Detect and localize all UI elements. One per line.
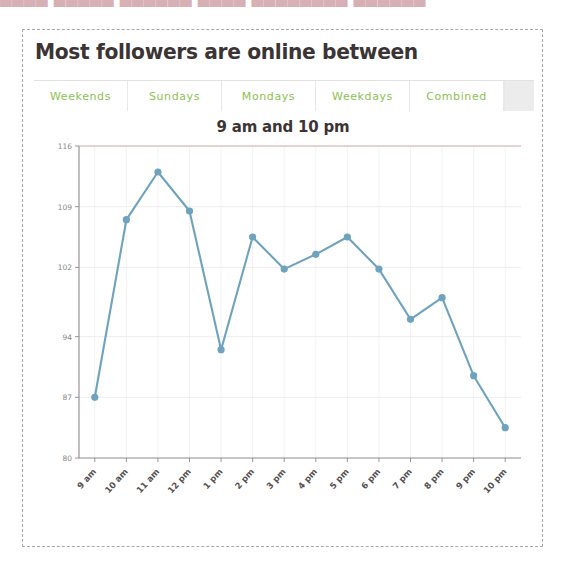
data-point-markers (91, 168, 509, 431)
svg-text:12 pm: 12 pm (166, 467, 193, 496)
y-axis-ticks: 116109102948780 (58, 142, 79, 463)
tab-bar: Weekends Sundays Mondays Weekdays Combin… (34, 80, 534, 111)
svg-text:11 am: 11 am (134, 467, 161, 496)
cutoff-page-text: ▄▄▄▄ ▄▄▄▄▄ ▄▄▄▄▄▄ ▄▄▄▄ ▄▄▄▄▄▄▄▄ ▄▄▄▄▄▄ (0, 0, 588, 7)
svg-text:10 pm: 10 pm (481, 467, 508, 496)
chart-title: 9 am and 10 pm (34, 118, 532, 136)
svg-text:9 pm: 9 pm (454, 467, 477, 491)
horizontal-gridlines (79, 207, 521, 398)
chart-canvas: 116109102948780 9 am10 am11 am12 pm1 pm2… (34, 140, 532, 536)
page-title: Most followers are online between (35, 39, 418, 64)
tab-sundays[interactable]: Sundays (128, 81, 222, 111)
tab-overflow-area[interactable] (504, 81, 534, 111)
svg-text:8 pm: 8 pm (422, 467, 445, 491)
svg-text:80: 80 (62, 454, 72, 463)
x-axis-ticks: 9 am10 am11 am12 pm1 pm2 pm3 pm4 pm5 pm6… (75, 458, 509, 495)
svg-text:6 pm: 6 pm (359, 467, 382, 491)
svg-text:87: 87 (62, 393, 72, 402)
svg-text:4 pm: 4 pm (296, 467, 319, 491)
svg-text:5 pm: 5 pm (327, 467, 350, 491)
followers-online-card: Most followers are online between Weeken… (22, 29, 543, 547)
tab-weekends[interactable]: Weekends (34, 81, 128, 111)
svg-text:109: 109 (58, 203, 73, 212)
followers-online-chart: 9 am and 10 pm 116109102948780 9 am10 am… (34, 118, 532, 536)
svg-text:7 pm: 7 pm (391, 467, 414, 491)
svg-text:2 pm: 2 pm (233, 467, 256, 491)
svg-text:116: 116 (58, 142, 73, 151)
svg-text:3 pm: 3 pm (264, 467, 287, 491)
tab-combined[interactable]: Combined (410, 81, 504, 111)
tab-mondays[interactable]: Mondays (222, 81, 316, 111)
svg-text:10 am: 10 am (103, 467, 130, 496)
svg-text:1 pm: 1 pm (201, 467, 224, 491)
svg-text:9 am: 9 am (75, 467, 98, 491)
svg-text:94: 94 (62, 333, 72, 342)
svg-text:102: 102 (58, 263, 73, 272)
tab-weekdays[interactable]: Weekdays (316, 81, 410, 111)
